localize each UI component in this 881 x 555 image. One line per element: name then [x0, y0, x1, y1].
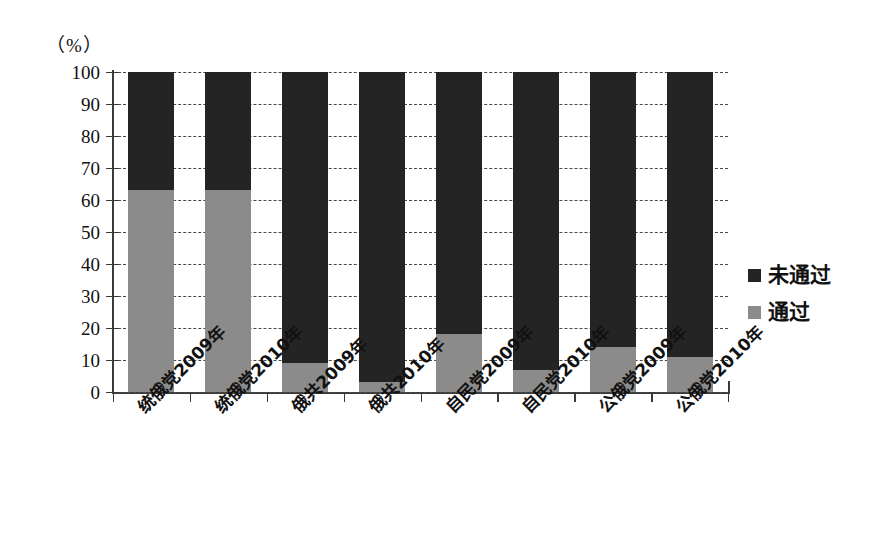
y-axis-tick-label: 30: [46, 287, 100, 306]
legend-item: 未通过: [748, 265, 831, 286]
bar-segment-fail: [667, 72, 713, 357]
chart-legend: 未通过通过: [748, 265, 831, 339]
y-axis-tick-label: 60: [46, 191, 100, 210]
y-axis-tick-label: 90: [46, 95, 100, 114]
x-axis-tick: [421, 392, 422, 402]
legend-item: 通过: [748, 302, 831, 323]
x-axis-tick: [344, 392, 345, 402]
y-axis-tick-label: 20: [46, 319, 100, 338]
y-axis-tick-label: 40: [46, 255, 100, 274]
x-axis-tick: [267, 392, 268, 402]
legend-swatch-icon: [748, 306, 761, 319]
bar-segment-fail: [359, 72, 405, 382]
bar-segment-fail: [205, 72, 251, 190]
y-axis-unit-label: （%）: [46, 30, 103, 57]
x-axis-tick: [651, 392, 652, 402]
legend-label: 通过: [768, 302, 810, 323]
y-axis-tick-label: 50: [46, 223, 100, 242]
x-axis-tick: [190, 392, 191, 402]
bar-segment-fail: [128, 72, 174, 190]
legend-label: 未通过: [768, 265, 831, 286]
x-axis-tick: [113, 392, 114, 402]
y-axis-tick-label: 70: [46, 159, 100, 178]
bar-segment-fail: [436, 72, 482, 334]
y-axis-tick-label: 80: [46, 127, 100, 146]
legend-swatch-icon: [748, 269, 761, 282]
bar-segment-fail: [590, 72, 636, 347]
y-axis-tick-label: 100: [46, 63, 100, 82]
bar-column: [128, 72, 174, 392]
stacked-bar-chart: （%） 1009080706050403020100 统俄党2009年统俄党20…: [0, 0, 881, 555]
y-axis-tick-label: 0: [46, 383, 100, 402]
y-axis-tick-label: 10: [46, 351, 100, 370]
x-axis-tick: [497, 392, 498, 402]
x-axis-tick: [728, 392, 729, 402]
x-axis-tick: [574, 392, 575, 402]
